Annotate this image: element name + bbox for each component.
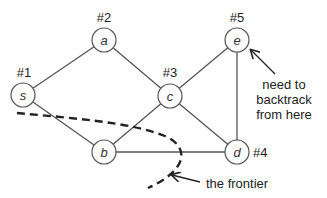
graph-diagram: s a c d e b #1 #2 #3 #4 #5 need to backt… (0, 0, 327, 198)
node-c: c (158, 84, 182, 108)
node-b: b (92, 140, 116, 164)
edge-s-b (23, 95, 104, 152)
edge-c-e (170, 40, 237, 96)
node-e: e (225, 28, 249, 52)
backtrack-note-line2: backtrack (256, 92, 312, 107)
edge-a-c (104, 40, 170, 96)
edge-s-a (23, 40, 104, 95)
order-label-a: #2 (97, 10, 111, 25)
frontier-arrow (172, 175, 200, 182)
node-label: a (100, 33, 107, 48)
node-label: c (167, 89, 174, 104)
node-label: e (233, 33, 240, 48)
order-label-d: #4 (253, 145, 267, 160)
backtrack-note-line1: need to (262, 77, 305, 92)
node-label: d (233, 145, 241, 160)
node-label: s (20, 88, 27, 103)
frontier-note: the frontier (206, 176, 269, 191)
edges (23, 40, 237, 152)
node-label: b (100, 145, 107, 160)
node-a: a (92, 28, 116, 52)
node-d: d (225, 140, 249, 164)
backtrack-note-line3: from here (256, 107, 312, 122)
order-label-s: #1 (17, 65, 31, 80)
order-label-c: #3 (163, 65, 177, 80)
backtrack-arrow (251, 50, 275, 74)
order-label-e: #5 (230, 10, 244, 25)
node-s: s (11, 83, 35, 107)
edge-c-d (170, 96, 237, 152)
